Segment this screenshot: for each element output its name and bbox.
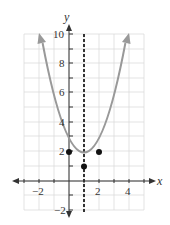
point-vertex-1-1 <box>81 164 87 170</box>
y-tick-label-2: 2 <box>59 145 65 157</box>
point-2-2 <box>96 149 102 155</box>
y-tick-label-4: 4 <box>59 116 65 128</box>
y-tick-label-6: 6 <box>59 86 65 98</box>
y-axis <box>66 24 73 218</box>
parabola-chart: −2 2 4 10 8 6 4 2 −2 x y <box>0 0 170 225</box>
y-tick-label-8: 8 <box>59 57 65 69</box>
y-axis-up-arrow-icon <box>66 24 72 31</box>
y-axis-down-arrow-icon <box>66 211 72 218</box>
curve-left-arrow-icon <box>38 33 47 44</box>
x-axis-label: x <box>156 174 163 188</box>
y-tick-label-10: 10 <box>53 28 65 40</box>
x-axis-right-arrow-icon <box>149 178 156 184</box>
x-tick-label-neg2: −2 <box>32 185 44 197</box>
x-tick-label-2: 2 <box>95 185 101 197</box>
y-axis-label: y <box>63 10 70 24</box>
y-tick-label-neg2: −2 <box>54 204 66 216</box>
point-0-2 <box>66 149 72 155</box>
x-tick-label-4: 4 <box>125 185 131 197</box>
x-axis-left-arrow-icon <box>12 178 19 184</box>
